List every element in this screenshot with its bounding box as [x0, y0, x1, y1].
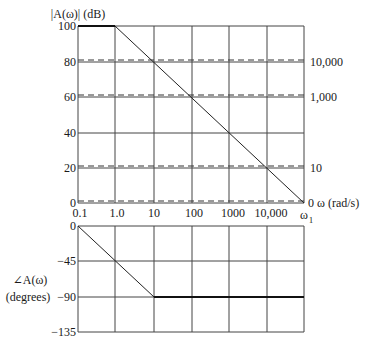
svg-text:10: 10: [310, 161, 322, 175]
svg-text:1.0: 1.0: [110, 206, 125, 220]
svg-text:0: 0: [70, 219, 76, 233]
svg-text:−135: −135: [51, 325, 76, 339]
phase-grid: [78, 226, 304, 332]
svg-text:10,000: 10,000: [310, 55, 343, 69]
svg-text:60: 60: [64, 90, 76, 104]
svg-text:1000: 1000: [221, 206, 245, 220]
svg-text:10,000: 10,000: [255, 206, 288, 220]
phase-y-ticks: 0 −45 −90 −135: [51, 219, 76, 339]
svg-text:20: 20: [64, 161, 76, 175]
x-axis-ticks: 0.1 1.0 10 100 1000 10,000 ω 1: [73, 206, 314, 225]
magnitude-plot: |A(ω)| (dB): [51, 7, 359, 225]
svg-text:100: 100: [58, 19, 76, 33]
right-axis-labels: 10,000 1,000 10 0 ω (rad/s): [308, 55, 359, 210]
svg-text:−90: −90: [57, 290, 76, 304]
svg-text:−45: −45: [57, 254, 76, 268]
phase-axis-title-line2: (degrees): [6, 290, 51, 304]
svg-text:0 ω (rad/s): 0 ω (rad/s): [308, 196, 359, 210]
svg-text:1,000: 1,000: [310, 90, 337, 104]
svg-text:ω: ω: [300, 208, 308, 222]
magnitude-y-ticks: 100 80 60 40 20 0: [58, 19, 76, 210]
phase-axis-title-line1: ∠A(ω): [13, 273, 48, 287]
phase-plot: 0 −45 −90 −135 ∠A(ω) (degrees): [6, 219, 304, 339]
svg-text:0.1: 0.1: [73, 206, 88, 220]
bode-plot: |A(ω)| (dB): [0, 0, 366, 345]
svg-text:40: 40: [64, 126, 76, 140]
magnitude-grid: [78, 26, 304, 203]
magnitude-slope-segment: [115, 26, 304, 203]
svg-text:10: 10: [148, 206, 160, 220]
svg-text:100: 100: [185, 206, 203, 220]
svg-text:1: 1: [309, 215, 314, 225]
svg-text:80: 80: [64, 55, 76, 69]
dashed-reference-lines: [78, 60, 304, 201]
